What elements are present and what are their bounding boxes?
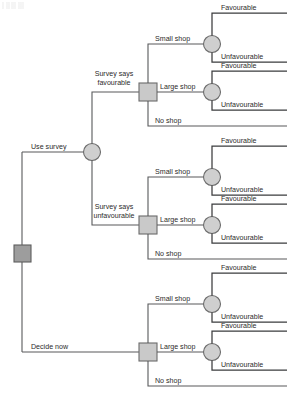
terminal-favourable-1b (212, 71, 287, 84)
terminal-favourable-2a (212, 146, 287, 169)
label-unfavourable-1b: Unfavourable (221, 101, 263, 109)
branch-small-shop-line-1 (148, 44, 203, 83)
label-no-shop-3: No shop (155, 377, 181, 385)
decision-node-decide-now[interactable] (139, 343, 157, 361)
label-unfavourable-2b: Unfavourable (221, 234, 263, 242)
chance-node-small-shop-2[interactable] (204, 169, 221, 186)
label-unfavourable-2a: Unfavourable (221, 186, 263, 194)
label-survey-unfavourable-line1: Survey says (95, 203, 134, 211)
label-use-survey: Use survey (31, 143, 67, 151)
chance-node-large-shop-1[interactable] (204, 84, 221, 101)
label-unfavourable-3b: Unfavourable (221, 361, 263, 369)
label-survey-favourable-line2: favourable (97, 79, 130, 87)
label-small-shop-2: Small shop (155, 168, 190, 176)
chance-node-small-shop-1[interactable] (204, 36, 221, 53)
branch-small-shop-line-3 (148, 304, 203, 343)
label-no-shop-1: No shop (155, 117, 181, 125)
label-small-shop-1: Small shop (155, 35, 190, 43)
label-favourable-1a: Favourable (221, 4, 257, 12)
chance-node-large-shop-2[interactable] (204, 217, 221, 234)
subtree-decide-now: Small shop Large shop No shop Favourable… (139, 264, 287, 386)
label-unfavourable-1a: Unfavourable (221, 53, 263, 61)
decision-node-survey-unfavourable[interactable] (139, 216, 157, 234)
label-favourable-1b: Favourable (221, 62, 257, 70)
label-large-shop-3: Large shop (160, 343, 196, 351)
branch-survey-favourable-line (92, 92, 139, 144)
terminal-favourable-3a (212, 273, 287, 296)
label-favourable-2b: Favourable (221, 195, 257, 203)
label-unfavourable-3a: Unfavourable (221, 313, 263, 321)
label-survey-favourable-line1: Survey says (95, 70, 134, 78)
chance-node-large-shop-3[interactable] (204, 344, 221, 361)
label-small-shop-3: Small shop (155, 295, 190, 303)
label-no-shop-2: No shop (155, 250, 181, 258)
terminal-favourable-3b (212, 331, 287, 344)
label-decide-now: Decide now (31, 343, 69, 351)
decision-tree-canvas: Use survey Decide now Survey says favour… (0, 0, 287, 405)
label-large-shop-2: Large shop (160, 216, 196, 224)
label-favourable-2a: Favourable (221, 137, 257, 145)
root-decision-node[interactable] (14, 245, 31, 262)
subtree-survey-unfavourable: Small shop Large shop No shop Favourable… (139, 137, 287, 259)
label-favourable-3a: Favourable (221, 264, 257, 272)
label-favourable-3b: Favourable (221, 322, 257, 330)
decision-node-survey-favourable[interactable] (139, 83, 157, 101)
terminal-favourable-2b (212, 204, 287, 217)
label-large-shop-1: Large shop (160, 83, 196, 91)
chance-node-small-shop-3[interactable] (204, 296, 221, 313)
subtree-survey-favourable: Small shop Large shop No shop Favourable… (139, 4, 287, 126)
terminal-favourable-1a (212, 13, 287, 36)
decision-tree-diagram: Use survey Decide now Survey says favour… (0, 0, 287, 405)
chance-node-use-survey[interactable] (84, 144, 101, 161)
label-survey-unfavourable-line2: unfavourable (93, 212, 134, 220)
branch-small-shop-line-2 (148, 177, 203, 216)
